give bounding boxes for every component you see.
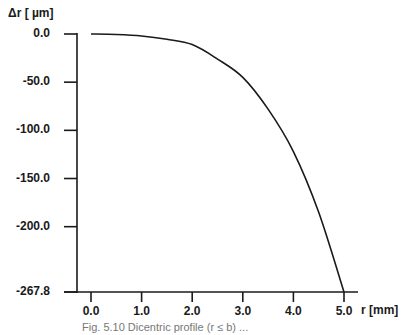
figure-caption: Fig. 5.10 Dicentric profile (r ≤ b) ... bbox=[82, 321, 248, 333]
y-tick-label: -267.8 bbox=[0, 284, 50, 298]
y-tick-label: 0.0 bbox=[0, 26, 50, 40]
y-tick-label: -150.0 bbox=[0, 171, 50, 185]
x-tick-label: 0.0 bbox=[71, 304, 111, 318]
data-curve bbox=[91, 34, 344, 292]
x-tick-label: 1.0 bbox=[122, 304, 162, 318]
x-axis-title: r [mm] bbox=[361, 303, 398, 317]
y-tick-label: -200.0 bbox=[0, 219, 50, 233]
x-tick-label: 2.0 bbox=[172, 304, 212, 318]
y-axis-title: Δr [ µm] bbox=[8, 6, 54, 20]
x-tick-label: 3.0 bbox=[223, 304, 263, 318]
y-tick-label: -50.0 bbox=[0, 74, 50, 88]
y-ticks bbox=[64, 34, 77, 292]
x-tick-label: 4.0 bbox=[273, 304, 313, 318]
x-ticks bbox=[91, 292, 344, 302]
x-tick-label: 5.0 bbox=[324, 304, 364, 318]
plot-area bbox=[0, 0, 415, 335]
y-tick-label: -100.0 bbox=[0, 122, 50, 136]
